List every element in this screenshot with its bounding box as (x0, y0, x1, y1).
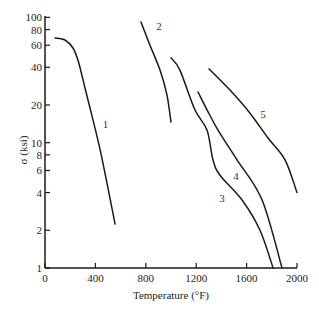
x-tick-label: 1600 (236, 272, 259, 284)
y-tick-label: 80 (31, 24, 43, 36)
curve-label-1: 1 (103, 118, 109, 130)
curve-4 (198, 92, 282, 268)
curve-3 (171, 58, 273, 268)
curve-label-2: 2 (156, 20, 162, 32)
x-tick-label: 1200 (185, 272, 208, 284)
x-tick-label: 2000 (286, 272, 309, 284)
x-ticks: 0400800120016002000 (42, 263, 308, 284)
chart: 12345 0400800120016002000 12468102040608… (0, 0, 319, 314)
curve-labels: 12345 (103, 20, 267, 204)
y-tick-label: 8 (37, 149, 43, 161)
y-tick-label: 1 (37, 262, 43, 274)
y-tick-label: 2 (37, 224, 43, 236)
curve-label-5: 5 (260, 108, 266, 120)
y-axis-title: σ (ksi) (17, 135, 30, 164)
x-tick-label: 400 (87, 272, 104, 284)
curves (55, 22, 297, 268)
y-ticks: 124681020406080100 (26, 11, 51, 274)
x-tick-label: 0 (42, 272, 48, 284)
y-tick-label: 40 (31, 61, 43, 73)
x-axis-title: Temperature (°F) (133, 289, 209, 302)
curve-1 (55, 38, 115, 224)
curve-label-3: 3 (219, 192, 225, 204)
curve-5 (209, 69, 297, 193)
y-tick-label: 6 (37, 164, 43, 176)
y-tick-label: 4 (37, 187, 43, 199)
y-tick-label: 100 (26, 11, 43, 23)
x-tick-label: 800 (138, 272, 155, 284)
curve-label-4: 4 (233, 170, 239, 182)
y-tick-label: 20 (31, 99, 43, 111)
y-tick-label: 10 (31, 137, 43, 149)
curve-2 (141, 22, 171, 122)
y-tick-label: 60 (31, 39, 43, 51)
